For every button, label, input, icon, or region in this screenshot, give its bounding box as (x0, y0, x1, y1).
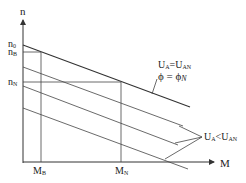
diagram-lines (0, 0, 246, 183)
nN-tick-label: nN (8, 77, 17, 87)
rated-voltage-annotation: UA=UAN (158, 60, 191, 70)
rated-flux-annotation: ϕ = ϕN (158, 71, 187, 83)
reduced-leader-3 (165, 137, 202, 159)
reduced-leader-2 (175, 137, 202, 143)
MN-tick-label: MN (115, 166, 128, 176)
nB-tick-label: nB (8, 47, 17, 57)
y-axis-label: n (20, 6, 26, 17)
x-axis-label: M (220, 158, 230, 169)
speed-torque-diagram: n M n0 nB nN MB MN UA=UAN ϕ = ϕN UA<UAN (0, 0, 246, 183)
flux-leader-line (152, 79, 157, 94)
reduced-leader-1 (179, 126, 202, 137)
MB-tick-label: MB (33, 166, 46, 176)
reduced-voltage-annotation: UA<UAN (204, 132, 237, 142)
